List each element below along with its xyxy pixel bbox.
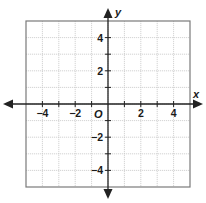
x-axis-right-arrow-icon (193, 100, 203, 109)
x-tick-label: 2 (138, 107, 144, 119)
x-axis-left-arrow-icon (3, 100, 13, 109)
y-axis-down-arrow-icon (104, 189, 113, 199)
x-axis-label: x (192, 88, 200, 100)
y-axis-up-arrow-icon (104, 8, 113, 18)
y-tick-label: −2 (91, 131, 103, 143)
coordinate-plane: −4−224 42−2−4 x y O (0, 0, 206, 203)
y-axis-label: y (114, 6, 122, 18)
y-tick-label: 2 (97, 65, 103, 77)
y-tick-label: −4 (91, 164, 103, 176)
x-tick-labels: −4−224 (36, 107, 176, 119)
origin-label: O (94, 108, 103, 120)
x-tick-label: −2 (69, 107, 81, 119)
y-tick-label: 4 (97, 32, 103, 44)
x-tick-label: 4 (171, 107, 177, 119)
x-tick-label: −4 (36, 107, 48, 119)
